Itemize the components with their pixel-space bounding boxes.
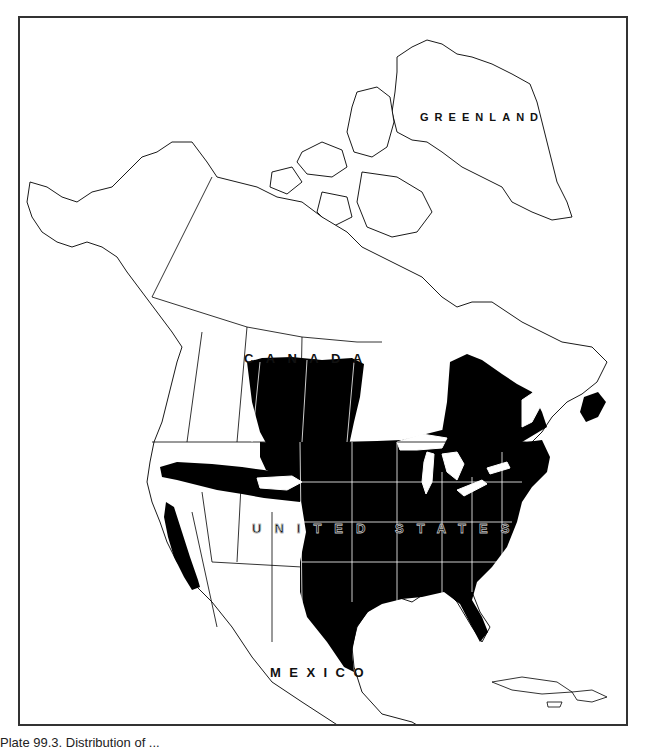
map-frame: GREENLAND CANADA UNITED STATES MEXICO [18, 16, 628, 726]
label-greenland: GREENLAND [420, 111, 544, 123]
cuba-outline [492, 677, 572, 694]
label-united-states: UNITED STATES [252, 521, 522, 536]
figure-caption: Plate 99.3. Distribution of ... [0, 735, 160, 750]
north-america-map [20, 18, 628, 726]
label-canada: CANADA [244, 351, 374, 366]
hispaniola-outline [572, 690, 607, 702]
label-mexico: MEXICO [270, 665, 372, 680]
ellesmere-island-outline [347, 87, 394, 157]
